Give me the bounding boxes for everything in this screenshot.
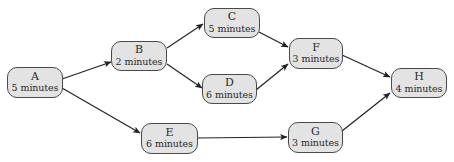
node-b-duration: 2 minutes <box>116 57 163 68</box>
edge-g-to-h-arrow-icon <box>342 93 390 131</box>
node-b: B 2 minutes <box>111 41 167 71</box>
node-h-label: H <box>414 71 424 84</box>
node-e-duration: 6 minutes <box>146 139 193 150</box>
node-e: E 6 minutes <box>141 123 198 154</box>
node-f: F 3 minutes <box>289 38 343 69</box>
node-d-label: D <box>225 77 234 90</box>
node-c-label: C <box>228 11 236 24</box>
node-h-duration: 4 minutes <box>396 84 443 95</box>
edge-d-to-f-arrow-icon <box>256 64 288 90</box>
edge-e-to-g-arrow-icon <box>198 137 287 138</box>
node-g: G 3 minutes <box>288 122 343 153</box>
edge-a-to-b-arrow-icon <box>62 62 111 79</box>
node-b-label: B <box>135 44 143 57</box>
edge-c-to-f-arrow-icon <box>259 32 288 47</box>
node-a: A 5 minutes <box>7 67 63 98</box>
edge-f-to-h-arrow-icon <box>342 55 390 77</box>
edge-b-to-c-arrow-icon <box>167 24 203 48</box>
node-g-duration: 3 minutes <box>292 138 339 149</box>
node-f-duration: 3 minutes <box>293 54 340 65</box>
edge-a-to-e-arrow-icon <box>62 88 140 133</box>
edge-b-to-d-arrow-icon <box>167 64 202 88</box>
node-a-duration: 5 minutes <box>12 83 59 94</box>
node-d-duration: 6 minutes <box>206 90 253 101</box>
activity-network-diagram: A 5 minutes B 2 minutes C 5 minutes D 6 … <box>0 0 454 162</box>
node-h: H 4 minutes <box>391 68 447 98</box>
node-d: D 6 minutes <box>202 74 257 104</box>
node-c: C 5 minutes <box>204 8 260 38</box>
node-c-duration: 5 minutes <box>209 24 256 35</box>
